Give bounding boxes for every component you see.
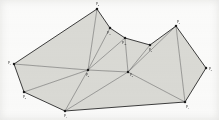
- vertex-label-p0: p0: [86, 73, 89, 78]
- vertex-dot-p4: [96, 8, 99, 11]
- triangulation-figure: p0p1p2p3p4p5p6p7p8p9p10p11: [0, 0, 219, 120]
- vertex-dot-p1: [64, 110, 67, 113]
- vertex-label-index: 6: [211, 69, 212, 72]
- vertex-label-p4: p4: [96, 2, 99, 7]
- vertex-label-index: 1: [66, 116, 67, 119]
- vertex-label-index: 2: [25, 97, 26, 100]
- triangulation-canvas: [0, 0, 219, 120]
- vertex-dot-p8: [149, 44, 152, 47]
- vertex-label-p1: p1: [64, 114, 67, 119]
- vertex-dot-p9: [127, 71, 130, 74]
- vertex-dot-p3: [13, 63, 16, 66]
- vertex-label-p10: p10: [122, 41, 126, 46]
- vertex-dot-p2: [23, 91, 26, 94]
- vertex-label-p6: p6: [209, 67, 212, 72]
- vertex-label-index: 11: [109, 33, 112, 36]
- vertex-label-p2: p2: [23, 95, 26, 100]
- vertex-label-p3: p3: [8, 61, 11, 66]
- vertex-label-index: 3: [10, 63, 11, 66]
- vertex-label-index: 0: [88, 75, 89, 78]
- vertex-label-index: 5: [179, 22, 180, 25]
- triangle-face: [14, 9, 97, 70]
- vertex-label-index: 8: [151, 50, 152, 53]
- vertex-label-p7: p7: [186, 105, 189, 110]
- vertex-dot-p7: [184, 101, 187, 104]
- vertex-dot-p6: [205, 67, 208, 70]
- vertex-label-p11: p11: [107, 31, 111, 36]
- vertex-label-p8: p8: [149, 48, 152, 53]
- vertex-dot-p0: [87, 69, 90, 72]
- vertex-label-index: 4: [98, 4, 99, 7]
- vertex-label-p5: p5: [177, 20, 180, 25]
- vertex-label-index: 7: [188, 107, 189, 110]
- vertex-label-index: 9: [132, 75, 133, 78]
- vertex-label-index: 10: [124, 43, 127, 46]
- vertex-dot-p10: [124, 37, 127, 40]
- vertex-label-p9: p9: [130, 73, 133, 78]
- vertex-dot-p11: [109, 27, 112, 30]
